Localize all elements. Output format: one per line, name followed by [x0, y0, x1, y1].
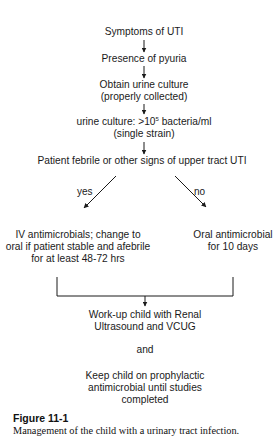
figure-number: Figure 11-1 [13, 412, 68, 424]
node-iv-antimicrobials: IV antimicrobials; change to oral if pat… [6, 229, 150, 265]
figure-caption: Management of the child with a urinary t… [13, 425, 239, 436]
node-prophylaxis: Keep child on prophylactic antimicrobial… [86, 370, 205, 406]
merge-bracket [57, 277, 233, 296]
branch-label-yes: yes [77, 186, 93, 197]
node-culture-result: urine culture: >105 bacteria/ml (single … [76, 116, 211, 140]
node-workup: Work-up child with Renal Ultrasound and … [89, 309, 202, 333]
node-oral-antimicrobial: Oral antimicrobial for 10 days [193, 229, 272, 253]
node-pyuria: Presence of pyuria [102, 53, 187, 65]
node-symptoms: Symptoms of UTI [105, 26, 184, 38]
branch-label-no: no [194, 186, 205, 197]
node-febrile-decision: Patient febrile or other signs of upper … [38, 155, 247, 167]
node-and: and [137, 344, 154, 356]
uti-management-flowchart: Symptoms of UTI Presence of pyuria Obtai… [0, 0, 275, 444]
node-urine-culture: Obtain urine culture (properly collected… [100, 79, 189, 103]
